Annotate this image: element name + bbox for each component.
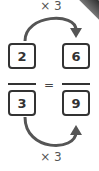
left-numerator-box: 2 bbox=[8, 43, 36, 69]
top-multiplier-label: × 3 bbox=[40, 0, 62, 13]
top-curved-arrow-icon bbox=[25, 18, 82, 41]
right-numerator-box: 6 bbox=[62, 43, 90, 69]
right-denominator-box: 9 bbox=[62, 90, 90, 116]
bottom-multiplier-label: × 3 bbox=[40, 150, 62, 164]
left-denominator-box: 3 bbox=[8, 90, 36, 116]
left-fraction-bar bbox=[8, 83, 36, 85]
right-fraction-bar bbox=[62, 83, 90, 85]
equals-sign: = bbox=[44, 78, 54, 92]
bottom-curved-arrow-icon bbox=[25, 117, 82, 146]
